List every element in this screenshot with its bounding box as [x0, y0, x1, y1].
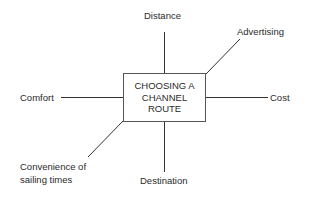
- central-topic-label: CHOOSING A CHANNEL ROUTE: [134, 80, 194, 115]
- central-topic-box: CHOOSING A CHANNEL ROUTE: [123, 73, 206, 122]
- factor-advertising: Advertising: [237, 26, 284, 37]
- factor-cost: Cost: [270, 92, 290, 103]
- factor-convenience-line2: sailing times: [20, 174, 72, 185]
- factor-convenience-line1: Convenience of: [20, 161, 86, 172]
- factor-distance: Distance: [144, 10, 181, 21]
- factor-destination: Destination: [140, 175, 188, 186]
- line-convenience: [88, 121, 123, 157]
- factor-comfort: Comfort: [20, 92, 54, 103]
- line-advertising: [206, 39, 240, 74]
